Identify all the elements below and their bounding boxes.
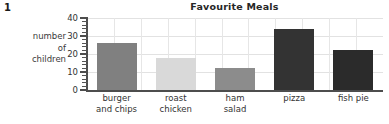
y-axis-tick-minor [82, 68, 88, 69]
x-axis-label-line: pizza [265, 93, 324, 104]
x-axis-line [86, 90, 383, 92]
x-axis-label: hamsalad [205, 93, 264, 115]
y-axis-tick-label: 20 [56, 50, 78, 59]
y-axis-tick-major [80, 17, 88, 18]
plot-area [87, 18, 383, 90]
y-axis-tick-major [80, 53, 88, 54]
y-axis-tick-minor [82, 82, 88, 83]
y-axis-tick-minor [82, 86, 88, 87]
question-number: 1 [4, 2, 11, 14]
y-axis-tick-label: 30 [56, 32, 78, 41]
gridline-vertical [329, 18, 330, 90]
gridline-horizontal [87, 18, 383, 19]
y-axis-tick-minor [82, 25, 88, 26]
x-axis-label: roastchicken [146, 93, 205, 115]
y-axis-tick-minor [82, 64, 88, 65]
gridline-horizontal [87, 36, 383, 37]
y-axis-tick-label: 10 [56, 68, 78, 77]
bar-roast-chicken [156, 58, 196, 90]
x-axis-label-line: ham [205, 93, 264, 104]
y-axis-tick-minor [82, 61, 88, 62]
y-axis-tick-minor [82, 21, 88, 22]
x-axis-label-line: burger [87, 93, 146, 104]
bar-fish-pie [333, 50, 373, 90]
y-axis-tick-major [80, 71, 88, 72]
y-axis-tick-major [80, 89, 88, 90]
x-axis-label: fish pie [324, 93, 383, 104]
bar-ham-salad [215, 68, 255, 90]
x-axis-label-line: fish pie [324, 93, 383, 104]
x-axis-label: burgerand chips [87, 93, 146, 115]
x-axis-label-line: roast [146, 93, 205, 104]
y-axis-tick-minor [82, 43, 88, 44]
x-axis-label-line: chicken [146, 104, 205, 115]
y-axis-tick-minor [82, 39, 88, 40]
x-axis-label: pizza [265, 93, 324, 104]
bar-pizza [274, 29, 314, 90]
x-axis-label-line: and chips [87, 104, 146, 115]
y-axis-tick-minor [82, 57, 88, 58]
worksheet-page: 1 Favourite Meals number of children 010… [0, 0, 389, 124]
y-axis-tick-minor [82, 32, 88, 33]
y-axis-tick-minor [82, 75, 88, 76]
x-axis-label-line: salad [205, 104, 264, 115]
y-axis-tick-label: 0 [56, 86, 78, 95]
y-axis-tick-minor [82, 46, 88, 47]
y-axis-tick-minor [82, 79, 88, 80]
y-axis-tick-label: 40 [56, 14, 78, 23]
y-axis-tick-minor [82, 28, 88, 29]
y-axis-tick-major [80, 35, 88, 36]
gridline-vertical [141, 18, 142, 90]
bar-burger-and-chips [97, 43, 137, 90]
y-axis-tick-minor [82, 50, 88, 51]
chart-title: Favourite Meals [86, 1, 383, 13]
